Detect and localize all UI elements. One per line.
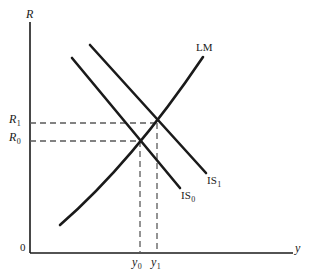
is-lm-figure: R y 0 R1 R0 y0 y1 LM IS1 IS0 — [0, 0, 314, 280]
curve-is0 — [72, 58, 180, 188]
diagram-canvas — [0, 0, 314, 280]
curve-is1 — [90, 45, 206, 173]
